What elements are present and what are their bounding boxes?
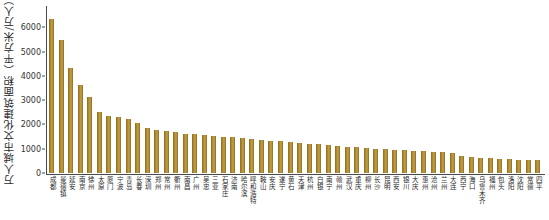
bar[interactable] [316, 144, 321, 173]
x-label-slot: 兰州 [438, 176, 448, 190]
bar-slot [457, 8, 467, 173]
bar-slot [219, 8, 229, 173]
bar[interactable] [259, 140, 264, 173]
x-label-slot: 西安 [390, 176, 400, 190]
y-axis-title-text: 万人城市文化建筑面积（平方米/万人） [4, 0, 15, 184]
bar[interactable] [383, 149, 388, 173]
bar-slot [371, 8, 381, 173]
bar[interactable] [135, 123, 140, 173]
bar[interactable] [249, 139, 254, 173]
bar-slot [514, 8, 524, 173]
x-label-slot: 济南 [228, 176, 238, 190]
bar[interactable] [431, 152, 436, 173]
bar-slot [85, 8, 95, 173]
bar[interactable] [145, 128, 150, 173]
bar-slot [133, 8, 143, 173]
bar-slot [466, 8, 476, 173]
x-axis-tick-label: 延安 [68, 176, 75, 190]
bar[interactable] [478, 158, 483, 173]
x-axis-tick-label: 南宁 [325, 176, 332, 190]
x-label-slot: 哈尔滨 [238, 176, 248, 197]
bar[interactable] [364, 148, 369, 173]
bar[interactable] [268, 141, 273, 173]
bar-slot [409, 8, 419, 173]
bar[interactable] [440, 152, 445, 173]
bar[interactable] [126, 119, 131, 173]
x-label-slot: 衢州 [171, 176, 181, 190]
bar[interactable] [326, 145, 331, 173]
bar-slot [314, 8, 324, 173]
bar[interactable] [392, 150, 397, 173]
y-axis-tick-labels: 0100020003000400050006000 [16, 8, 45, 173]
bar-slot [161, 8, 171, 173]
x-label-slot: 厦门 [104, 176, 114, 190]
x-label-slot: 广州 [190, 176, 200, 190]
bar-slot [333, 8, 343, 173]
bar[interactable] [297, 143, 302, 173]
bar[interactable] [183, 134, 188, 173]
bar[interactable] [240, 138, 245, 173]
bar[interactable] [164, 131, 169, 173]
x-axis-tick-label: 太原 [96, 176, 103, 190]
bar[interactable] [373, 149, 378, 173]
x-label-slot: 重庆 [352, 176, 362, 190]
bar-slot [228, 8, 238, 173]
bar[interactable] [507, 159, 512, 173]
bar[interactable] [488, 158, 493, 173]
x-label-slot: 石家庄 [219, 176, 229, 197]
bar[interactable] [202, 135, 207, 173]
x-axis-tick-label: 福州 [487, 176, 494, 190]
x-axis-tick-label: 鞍山 [258, 176, 265, 190]
bar[interactable] [221, 137, 226, 173]
bar[interactable] [450, 153, 455, 173]
bar-series [47, 8, 543, 173]
bar-slot [104, 8, 114, 173]
x-label-slot: 深圳 [142, 176, 152, 190]
bar[interactable] [154, 130, 159, 173]
bar[interactable] [307, 144, 312, 173]
x-axis-tick-label: 大连 [449, 176, 456, 190]
bar[interactable] [87, 97, 92, 173]
x-axis-tick-label: 济南 [230, 176, 237, 190]
bar[interactable] [59, 40, 64, 173]
bar[interactable] [516, 160, 521, 173]
bar[interactable] [402, 150, 407, 173]
bar[interactable] [230, 137, 235, 173]
bar[interactable] [192, 134, 197, 173]
bar[interactable] [335, 146, 340, 173]
bar[interactable] [288, 142, 293, 173]
bar[interactable] [526, 160, 531, 173]
y-axis-tick-mark [42, 100, 45, 101]
x-axis-tick-label: 郑州 [153, 176, 160, 190]
bar[interactable] [106, 116, 111, 173]
bar[interactable] [211, 136, 216, 173]
x-axis-tick-label: 遂宁 [277, 176, 284, 190]
bar[interactable] [459, 156, 464, 173]
x-axis-tick-label: 白银 [315, 176, 322, 190]
bar[interactable] [535, 160, 540, 173]
bar[interactable] [173, 132, 178, 173]
bar[interactable] [469, 157, 474, 173]
bar[interactable] [421, 151, 426, 173]
bar-slot [362, 8, 372, 173]
bar[interactable] [411, 151, 416, 173]
x-label-slot: 大庆 [409, 176, 419, 190]
x-label-slot: 海口 [466, 176, 476, 190]
bar[interactable] [49, 19, 54, 173]
x-label-slot: 昆明 [381, 176, 391, 190]
bar[interactable] [345, 147, 350, 173]
bar[interactable] [97, 112, 102, 173]
x-axis-tick-label: 重庆 [353, 176, 360, 190]
bar-chart: 万人城市文化建筑面积（平方米/万人） 010002000300040005000… [0, 0, 549, 220]
x-axis-tick-label: 成都 [48, 176, 55, 190]
bar[interactable] [68, 68, 73, 173]
bar[interactable] [354, 147, 359, 173]
bar[interactable] [116, 117, 121, 173]
y-axis-tick-label: 1000 [21, 144, 41, 153]
bar[interactable] [497, 159, 502, 173]
bar[interactable] [78, 85, 83, 173]
bar[interactable] [278, 141, 283, 173]
x-label-slot: 南昌 [180, 176, 190, 190]
x-axis-tick-label: 石家庄 [220, 176, 227, 197]
y-axis-tick-mark [42, 124, 45, 125]
